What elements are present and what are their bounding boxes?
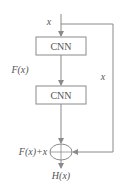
output-label: H(x) — [51, 170, 71, 181]
cnn-block-1-label: CNN — [50, 41, 71, 52]
sum-label: F(x)+x — [18, 146, 48, 158]
input-label: x — [46, 16, 52, 27]
residual-label: F(x) — [10, 64, 29, 76]
cnn-block-2-label: CNN — [50, 90, 71, 101]
skip-label: x — [100, 71, 106, 82]
residual-block-diagram: x x CNN F(x) CNN F(x)+x H(x) — [0, 0, 125, 181]
